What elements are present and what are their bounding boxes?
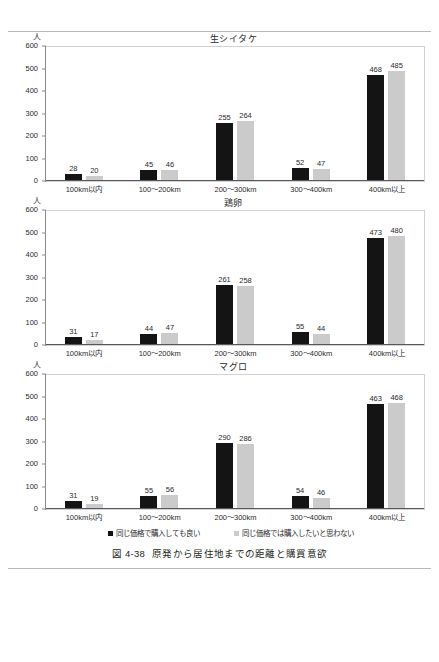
y-tick-label: 500 xyxy=(25,229,38,237)
bar[interactable] xyxy=(161,170,178,180)
bar-value-label: 47 xyxy=(317,159,325,168)
bar[interactable] xyxy=(140,334,157,344)
bar-column[interactable]: 47 xyxy=(161,211,178,344)
bar-column[interactable]: 19 xyxy=(86,375,103,508)
bar-column[interactable]: 485 xyxy=(388,47,405,180)
bar-column[interactable]: 44 xyxy=(313,211,330,344)
bar-column[interactable]: 290 xyxy=(216,375,233,508)
bar-group: 2820 xyxy=(46,47,122,180)
bar-column[interactable]: 28 xyxy=(65,47,82,180)
bar[interactable] xyxy=(216,285,233,344)
bar-column[interactable]: 473 xyxy=(367,211,384,344)
bar[interactable] xyxy=(292,496,309,508)
plot-area: 311955562902865446463468 xyxy=(46,374,425,510)
bar-value-label: 17 xyxy=(90,330,98,339)
bar-group: 5556 xyxy=(122,375,198,508)
legend-swatch-icon xyxy=(108,531,113,536)
x-tick-label: 400km以上 xyxy=(349,512,425,524)
bar-column[interactable]: 20 xyxy=(86,47,103,180)
bar-value-label: 28 xyxy=(69,164,77,173)
chart-legend: 同じ価格で購入しても良い同じ価格では購入したいと思わない xyxy=(0,528,439,539)
bar-column[interactable]: 31 xyxy=(65,375,82,508)
bar-value-label: 468 xyxy=(390,393,403,402)
bar[interactable] xyxy=(388,236,405,344)
y-tick-label: 0 xyxy=(34,505,38,513)
bar-column[interactable]: 480 xyxy=(388,211,405,344)
bar[interactable] xyxy=(388,403,405,508)
y-tick-label: 300 xyxy=(25,274,38,282)
bar-value-label: 44 xyxy=(317,324,325,333)
bar-value-label: 485 xyxy=(390,61,403,70)
bar-column[interactable]: 261 xyxy=(216,211,233,344)
bar-column[interactable]: 45 xyxy=(140,47,157,180)
bar-column[interactable]: 468 xyxy=(367,47,384,180)
bar-column[interactable]: 17 xyxy=(86,211,103,344)
chart-title: マグロ xyxy=(0,360,439,374)
bar-column[interactable]: 286 xyxy=(237,375,254,508)
chart-1: 人生シイタケ0100200300400500600282045462552645… xyxy=(0,32,439,196)
bar-value-label: 47 xyxy=(166,323,174,332)
chart-body: 0100200300400500600311955562902865446463… xyxy=(0,374,425,524)
bar-column[interactable]: 46 xyxy=(313,375,330,508)
bar-column[interactable]: 31 xyxy=(65,211,82,344)
bar-column[interactable]: 468 xyxy=(388,375,405,508)
bar-value-label: 463 xyxy=(369,394,382,403)
bar-value-label: 286 xyxy=(239,434,252,443)
y-tick-label: 400 xyxy=(25,87,38,95)
bar-group: 261258 xyxy=(197,211,273,344)
bar-value-label: 46 xyxy=(166,160,174,169)
bar-column[interactable]: 264 xyxy=(237,47,254,180)
bar-column[interactable]: 46 xyxy=(161,47,178,180)
bar-column[interactable]: 255 xyxy=(216,47,233,180)
figure-caption: 図 4-38原発から居住地までの距離と購買意欲 xyxy=(0,546,439,560)
bar[interactable] xyxy=(388,71,405,180)
bar[interactable] xyxy=(367,404,384,508)
bar-column[interactable]: 54 xyxy=(292,375,309,508)
y-tick-label: 300 xyxy=(25,438,38,446)
bar-column[interactable]: 258 xyxy=(237,211,254,344)
figure-caption-text: 原発から居住地までの距離と購買意欲 xyxy=(152,548,327,559)
bar[interactable] xyxy=(313,498,330,508)
bar[interactable] xyxy=(313,169,330,180)
legend-item[interactable]: 同じ価格では購入したいと思わない xyxy=(234,528,354,539)
bar-value-label: 255 xyxy=(218,113,231,122)
y-tick-label: 300 xyxy=(25,110,38,118)
bar[interactable] xyxy=(140,496,157,508)
bar[interactable] xyxy=(237,121,254,180)
chart-body: 0100200300400500600282045462552645247468… xyxy=(0,46,425,196)
bar-column[interactable]: 56 xyxy=(161,375,178,508)
bar-group: 3119 xyxy=(46,375,122,508)
bar[interactable] xyxy=(216,443,233,508)
bar-value-label: 31 xyxy=(69,327,77,336)
bar-value-label: 19 xyxy=(90,494,98,503)
y-tick-label: 200 xyxy=(25,460,38,468)
y-axis: 0100200300400500600 xyxy=(0,374,46,510)
bar-group: 5446 xyxy=(273,375,349,508)
bar[interactable] xyxy=(161,333,178,344)
bar[interactable] xyxy=(313,334,330,344)
x-tick-label: 100km以内 xyxy=(46,184,122,196)
bar-column[interactable]: 52 xyxy=(292,47,309,180)
bar[interactable] xyxy=(161,495,178,508)
x-axis: 100km以内100〜200km200〜300km300〜400km400km以… xyxy=(46,512,425,524)
bar[interactable] xyxy=(292,168,309,180)
bar[interactable] xyxy=(367,238,384,344)
y-tick-label: 100 xyxy=(25,155,38,163)
legend-item[interactable]: 同じ価格で購入しても良い xyxy=(108,528,200,539)
bar[interactable] xyxy=(65,501,82,508)
bar[interactable] xyxy=(367,75,384,180)
x-tick-label: 200〜300km xyxy=(198,348,274,360)
bar[interactable] xyxy=(237,286,254,344)
bar[interactable] xyxy=(140,170,157,180)
bar[interactable] xyxy=(216,123,233,180)
bar-column[interactable]: 44 xyxy=(140,211,157,344)
bar-column[interactable]: 55 xyxy=(140,375,157,508)
bar-column[interactable]: 463 xyxy=(367,375,384,508)
bar[interactable] xyxy=(292,332,309,344)
bar-column[interactable]: 47 xyxy=(313,47,330,180)
legend-swatch-icon xyxy=(234,531,239,536)
bar[interactable] xyxy=(65,337,82,344)
bar-value-label: 46 xyxy=(317,488,325,497)
bar-column[interactable]: 55 xyxy=(292,211,309,344)
bar[interactable] xyxy=(237,444,254,508)
